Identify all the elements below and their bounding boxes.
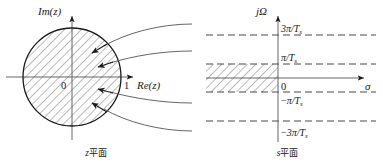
flow-curve-2 [110, 51, 192, 63]
s-plane-panel: jΩ σ 0 3π/Ts π/Ts −π/Ts −3π/Ts s平面 [192, 0, 383, 167]
tick-label-pi-over-Ts: π/Ts [281, 52, 297, 65]
re-axis-label: Re(z) [136, 79, 161, 92]
tick-label-3pi-over-Ts: 3π/Ts [280, 23, 302, 36]
origin-label: 0 [61, 80, 66, 91]
flow-curve-1 [104, 24, 192, 46]
tick-label-neg-pi-over-Ts: −π/Ts [281, 95, 303, 108]
figure-z-plane-s-plane-mapping: Im(z) Re(z) 0 1 z平面 [0, 0, 383, 167]
z-plane-panel: Im(z) Re(z) 0 1 z平面 [0, 0, 192, 167]
z-plane-caption-han: 平面 [89, 148, 107, 158]
sigma-axis-label: σ [365, 80, 371, 92]
tick-label-neg-3pi-over-Ts: −3π/Ts [281, 127, 308, 140]
s-plane-caption-han: 平面 [280, 148, 298, 158]
unit-point-label: 1 [124, 80, 129, 91]
unit-disk-hatch [20, 25, 125, 130]
im-axis-label: Im(z) [37, 5, 62, 18]
z-plane-caption: z平面 [0, 146, 192, 159]
origin-label: 0 [281, 81, 286, 92]
flow-curve-4 [104, 109, 192, 131]
z-plane-drawing: Im(z) Re(z) 0 1 [0, 0, 192, 167]
s-plane-caption: s平面 [192, 146, 383, 159]
s-plane-drawing: jΩ σ 0 3π/Ts π/Ts −π/Ts −3π/Ts [192, 0, 383, 167]
flow-curve-3 [110, 92, 192, 103]
jomega-axis-label: jΩ [254, 5, 267, 17]
